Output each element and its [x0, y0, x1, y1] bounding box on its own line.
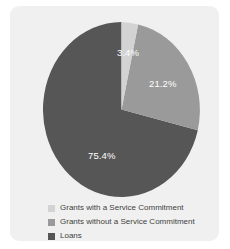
pie-value-label-loans: 75.4% [88, 150, 115, 161]
legend-swatch-icon-grants-without-service-commitment [48, 219, 55, 226]
pie-value-label-grants-without-service-commitment: 21.2% [149, 78, 176, 89]
legend-item-grants-with-service-commitment[interactable]: Grants with a Service Commitment [48, 201, 223, 215]
chart-legend: Grants with a Service Commitment Grants … [48, 201, 223, 243]
legend-item-loans[interactable]: Loans [48, 229, 223, 243]
legend-label-grants-without-service-commitment: Grants without a Service Commitment [60, 217, 195, 227]
legend-label-loans: Loans [60, 231, 82, 241]
legend-swatch-icon-loans [48, 233, 55, 240]
legend-item-grants-without-service-commitment[interactable]: Grants without a Service Commitment [48, 215, 223, 229]
pie-chart: 3.4% 21.2% 75.4% [43, 22, 200, 197]
chart-figure: 3.4% 21.2% 75.4% Grants with a Service C… [0, 0, 230, 249]
legend-label-grants-with-service-commitment: Grants with a Service Commitment [60, 203, 184, 213]
legend-swatch-icon-grants-with-service-commitment [48, 205, 55, 212]
pie-value-label-grants-with-service-commitment: 3.4% [117, 47, 139, 58]
chart-panel: 3.4% 21.2% 75.4% Grants with a Service C… [10, 6, 219, 241]
